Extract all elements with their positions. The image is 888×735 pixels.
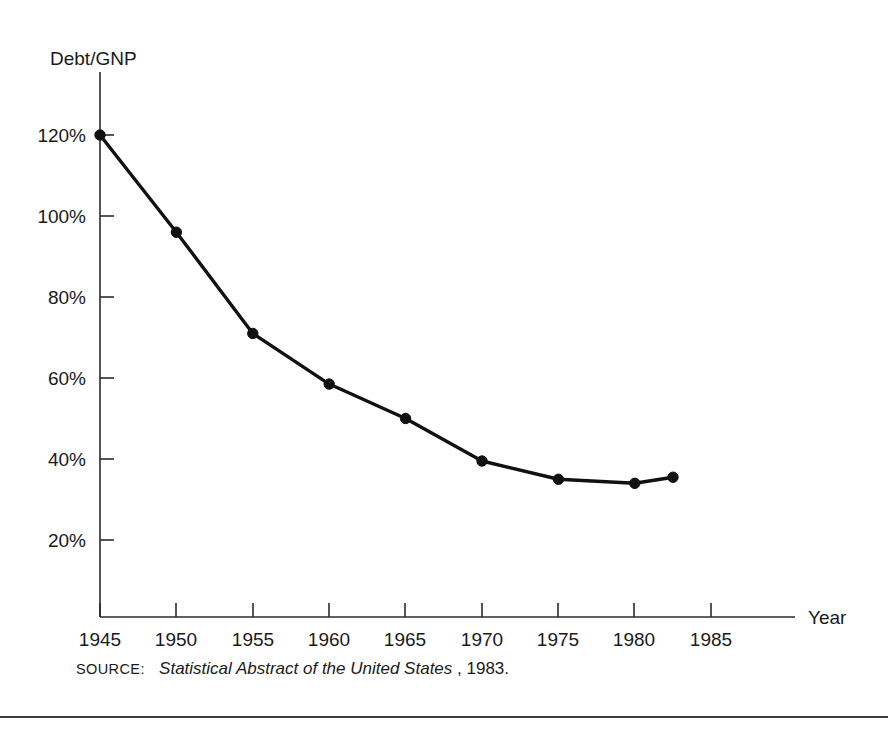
y-tick-label: 80% <box>48 287 86 308</box>
series-marker-group <box>95 130 678 489</box>
x-tick-label: 1975 <box>537 629 579 650</box>
y-tick-label: 40% <box>48 449 86 470</box>
source-kicker: SOURCE: <box>76 661 145 677</box>
x-axis-title: Year <box>808 607 847 628</box>
x-tick-group: 1945 1950 1955 1960 1965 1970 1975 1980 … <box>79 603 732 650</box>
x-tick-label: 1970 <box>461 629 503 650</box>
page-bottom-rule <box>0 716 888 718</box>
chart-canvas: Debt/GNP 120% 100% 80% 60% 40% 20% <box>0 0 888 735</box>
series-data-point <box>324 379 334 389</box>
series-data-point <box>95 130 105 140</box>
series-data-point <box>477 456 487 466</box>
y-tick-label: 60% <box>48 368 86 389</box>
series-data-point <box>400 413 410 423</box>
x-tick-label: 1950 <box>155 629 197 650</box>
series-data-point <box>171 227 181 237</box>
series-line-debt-gnp <box>100 135 673 483</box>
axes-group <box>100 72 795 617</box>
y-tick-label: 100% <box>37 206 86 227</box>
source-publication-title: Statistical Abstract of the United State… <box>159 659 452 678</box>
x-tick-label: 1965 <box>384 629 426 650</box>
x-tick-label: 1955 <box>232 629 274 650</box>
figure-page: Debt/GNP 120% 100% 80% 60% 40% 20% <box>0 0 888 735</box>
series-data-point <box>248 328 258 338</box>
y-tick-label: 120% <box>37 125 86 146</box>
y-tick-label: 20% <box>48 530 86 551</box>
y-tick-group: 120% 100% 80% 60% 40% 20% <box>37 125 114 551</box>
x-tick-label: 1960 <box>308 629 350 650</box>
data-series-group <box>95 130 678 489</box>
series-data-point <box>630 478 640 488</box>
source-note: SOURCE: Statistical Abstract of the Unit… <box>76 659 509 679</box>
x-tick-label: 1945 <box>79 629 121 650</box>
y-axis-title: Debt/GNP <box>50 48 137 69</box>
series-data-point <box>553 474 563 484</box>
x-tick-label: 1980 <box>613 629 655 650</box>
x-tick-label: 1985 <box>690 629 732 650</box>
source-year: , 1983. <box>457 659 509 678</box>
debt-gnp-line-chart: Debt/GNP 120% 100% 80% 60% 40% 20% <box>0 0 888 735</box>
series-data-point <box>668 472 678 482</box>
